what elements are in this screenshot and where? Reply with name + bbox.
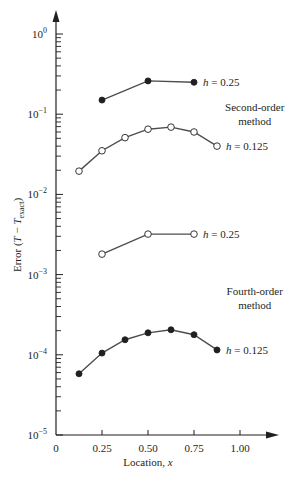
- method-annotation: Fourth-order: [227, 285, 284, 297]
- open-marker-icon: [145, 126, 152, 133]
- filled-marker-icon: [76, 371, 82, 377]
- series-0: [99, 78, 197, 103]
- y-tick-label: 10−2: [27, 186, 47, 200]
- open-marker-icon: [168, 124, 175, 131]
- x-tick-label: 0: [53, 442, 59, 454]
- filled-marker-icon: [145, 78, 151, 84]
- open-marker-icon: [76, 168, 83, 175]
- open-marker-icon: [191, 129, 198, 136]
- filled-marker-icon: [191, 79, 197, 85]
- y-axis-title: Error (T − Texact): [11, 198, 26, 272]
- filled-marker-icon: [168, 327, 174, 333]
- open-marker-icon: [99, 147, 106, 154]
- axes: 10010−110−210−310−410−500.250.500.751.00: [27, 10, 279, 454]
- error-vs-location-chart: 10010−110−210−310−410−500.250.500.751.00…: [0, 0, 304, 479]
- x-tick-label: 0.25: [92, 442, 112, 454]
- y-tick-label: 10−5: [27, 427, 47, 441]
- open-marker-icon: [214, 143, 221, 150]
- series-label: h = 0.25: [203, 228, 240, 240]
- x-tick-label: 0.50: [138, 442, 158, 454]
- data-series: [76, 78, 221, 377]
- filled-marker-icon: [214, 347, 220, 353]
- method-annotation: method: [238, 115, 271, 127]
- open-marker-icon: [122, 134, 129, 141]
- x-tick-label: 1.00: [230, 442, 250, 454]
- y-tick-label: 10−3: [27, 267, 47, 281]
- series-1: [76, 124, 221, 175]
- filled-marker-icon: [99, 97, 105, 103]
- x-tick-label: 0.75: [184, 442, 204, 454]
- x-axis-title: Location, x: [123, 456, 173, 468]
- y-tick-label: 10−1: [27, 106, 47, 120]
- x-axis-arrow-icon: [266, 432, 279, 439]
- series-label: h = 0.25: [203, 76, 240, 88]
- filled-marker-icon: [145, 330, 151, 336]
- series-2: [99, 231, 198, 258]
- y-tick-label: 100: [32, 26, 47, 40]
- annotations: h = 0.25h = 0.125h = 0.25h = 0.125Second…: [203, 76, 285, 356]
- method-annotation: method: [238, 299, 271, 311]
- filled-marker-icon: [191, 332, 197, 338]
- y-tick-label: 10−4: [27, 347, 47, 361]
- filled-marker-icon: [122, 337, 128, 343]
- series-3: [76, 327, 220, 377]
- filled-marker-icon: [99, 350, 105, 356]
- method-annotation: Second-order: [225, 101, 285, 113]
- series-label: h = 0.125: [226, 140, 268, 152]
- y-axis-arrow-icon: [53, 10, 60, 22]
- open-marker-icon: [99, 251, 106, 258]
- series-label: h = 0.125: [226, 344, 268, 356]
- open-marker-icon: [145, 231, 152, 238]
- open-marker-icon: [191, 231, 198, 238]
